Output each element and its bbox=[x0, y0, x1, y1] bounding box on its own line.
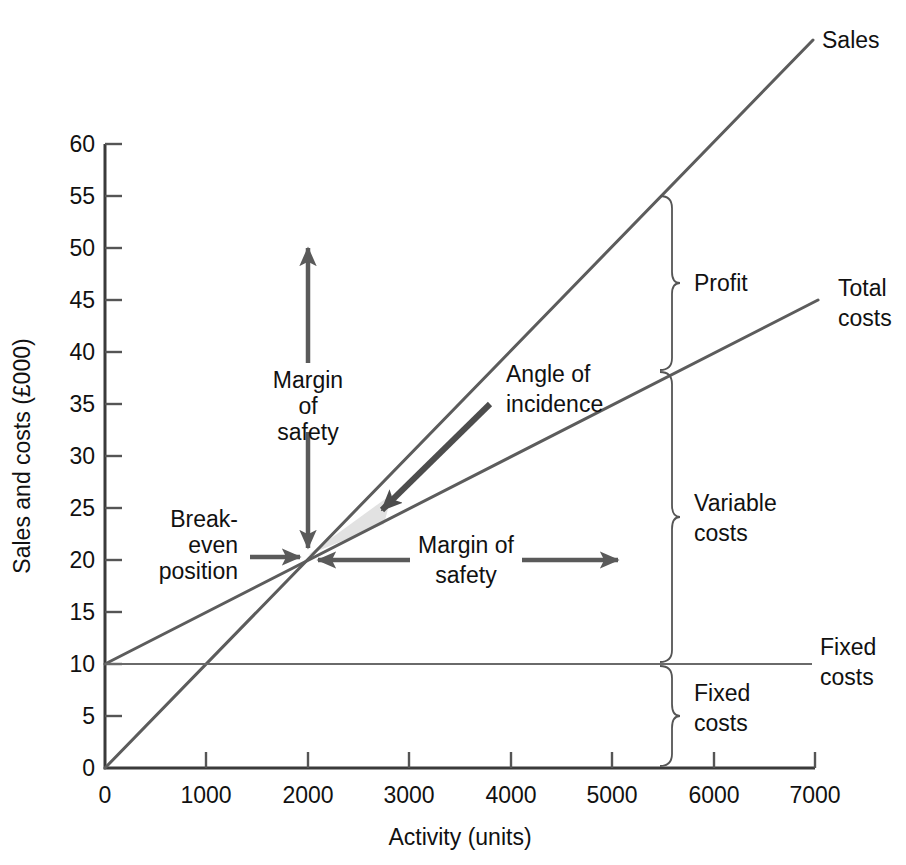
y-tick-label-0: 0 bbox=[82, 755, 95, 781]
x-tick-label-6000: 6000 bbox=[688, 782, 739, 808]
y-tick-label-10: 10 bbox=[69, 651, 95, 677]
brace-label-profit: Profit bbox=[694, 270, 748, 296]
brace-profit bbox=[660, 196, 680, 370]
data-series-group bbox=[105, 40, 818, 768]
x-tick-label-0: 0 bbox=[99, 782, 112, 808]
break-even-chart: 60 55 50 45 40 35 30 25 20 15 10 5 0 bbox=[0, 0, 906, 865]
chart-canvas: 60 55 50 45 40 35 30 25 20 15 10 5 0 bbox=[0, 0, 906, 865]
series-line-sales bbox=[105, 40, 813, 768]
angle-of-incidence-line2: incidence bbox=[506, 391, 603, 417]
break-even-label-line2: even bbox=[188, 532, 238, 558]
break-even-label-line1: Break- bbox=[170, 506, 238, 532]
angle-of-incidence-line1: Angle of bbox=[506, 361, 591, 387]
margin-of-safety-vertical-line2: of bbox=[298, 393, 318, 419]
series-line-total-costs bbox=[105, 300, 818, 664]
y-tick-label-5: 5 bbox=[82, 703, 95, 729]
x-tick-label-1000: 1000 bbox=[180, 782, 231, 808]
margin-of-safety-vertical-line3: safety bbox=[277, 419, 339, 445]
series-label-fixed-costs-line2: costs bbox=[820, 664, 874, 690]
y-tick-label-55: 55 bbox=[69, 183, 95, 209]
margin-of-safety-horizontal-line1: Margin of bbox=[418, 532, 514, 558]
x-axis-title: Activity (units) bbox=[388, 824, 531, 850]
margin-of-safety-horizontal-line2: safety bbox=[435, 562, 497, 588]
x-tick-label-2000: 2000 bbox=[282, 782, 333, 808]
y-tick-label-25: 25 bbox=[69, 495, 95, 521]
x-tick-label-3000: 3000 bbox=[383, 782, 434, 808]
brace-label-fixed-costs-line2: costs bbox=[694, 710, 748, 736]
series-label-fixed-costs-line1: Fixed bbox=[820, 634, 876, 660]
margin-of-safety-vertical-line1: Margin bbox=[273, 367, 343, 393]
x-tick-label-4000: 4000 bbox=[485, 782, 536, 808]
y-tick-label-60: 60 bbox=[69, 131, 95, 157]
y-axis-title: Sales and costs (£000) bbox=[9, 338, 35, 573]
y-tick-label-20: 20 bbox=[69, 547, 95, 573]
y-axis-ticks bbox=[105, 144, 122, 716]
series-label-sales: Sales bbox=[822, 27, 880, 53]
series-label-total-costs-line2: costs bbox=[838, 305, 892, 331]
x-tick-label-7000: 7000 bbox=[789, 782, 840, 808]
x-tick-label-5000: 5000 bbox=[586, 782, 637, 808]
brace-variable-costs bbox=[660, 372, 680, 662]
brace-label-fixed-costs-line1: Fixed bbox=[694, 680, 750, 706]
brace-group: Profit Variable costs Fixed costs bbox=[660, 196, 777, 766]
y-tick-label-15: 15 bbox=[69, 599, 95, 625]
series-label-total-costs-line1: Total bbox=[838, 275, 887, 301]
y-tick-label-40: 40 bbox=[69, 339, 95, 365]
break-even-label-line3: position bbox=[159, 558, 238, 584]
y-tick-label-45: 45 bbox=[69, 287, 95, 313]
x-axis-ticks bbox=[206, 752, 815, 768]
brace-label-variable-costs-line1: Variable bbox=[694, 490, 777, 516]
y-tick-label-35: 35 bbox=[69, 391, 95, 417]
y-tick-label-30: 30 bbox=[69, 443, 95, 469]
brace-fixed-costs bbox=[660, 666, 680, 766]
y-tick-label-50: 50 bbox=[69, 235, 95, 261]
brace-label-variable-costs-line2: costs bbox=[694, 520, 748, 546]
axis-lines bbox=[105, 144, 815, 768]
